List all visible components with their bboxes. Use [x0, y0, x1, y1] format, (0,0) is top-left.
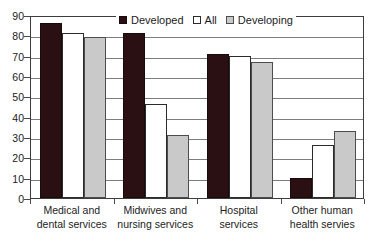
bar-group: [115, 17, 199, 198]
gray-square-icon: [226, 16, 234, 24]
x-axis-category-label-line: Hospital: [220, 204, 258, 216]
y-axis-tick-label: 30: [0, 133, 24, 143]
y-axis-tick-label: 90: [0, 11, 24, 21]
bar-chart: 9080706050403020100 Medical anddental se…: [0, 0, 377, 243]
x-axis-category-label-line: nursing services: [114, 217, 198, 231]
chart-legend: DevelopedAllDeveloping: [116, 13, 296, 27]
bar-all[interactable]: [62, 33, 84, 198]
filled-square-icon: [119, 16, 127, 24]
bar-group: [31, 17, 115, 198]
y-axis-tick-label: 0: [0, 194, 24, 204]
legend-entry-developing[interactable]: Developing: [226, 14, 293, 26]
y-axis: 9080706050403020100: [0, 0, 24, 243]
legend-label: All: [205, 14, 217, 26]
x-axis-tick-mark: [281, 199, 282, 204]
bar-all[interactable]: [145, 104, 167, 198]
legend-entry-all[interactable]: All: [193, 14, 217, 26]
bar-developing[interactable]: [84, 37, 106, 198]
x-axis-category-label: Other humanhealth servies: [281, 203, 365, 231]
y-axis-tick-label: 80: [0, 31, 24, 41]
y-axis-tick-label: 10: [0, 174, 24, 184]
bar-developing[interactable]: [251, 62, 273, 198]
bar-developing[interactable]: [334, 131, 356, 198]
x-axis-category-label: Midwives andnursing services: [114, 203, 198, 231]
x-axis-category-label-line: Midwives and: [123, 204, 187, 216]
x-axis-category-label-line: dental services: [30, 217, 114, 231]
bar-all[interactable]: [312, 145, 334, 198]
x-axis-tick-mark: [364, 199, 365, 204]
x-axis: Medical anddental servicesMidwives andnu…: [30, 203, 364, 243]
x-axis-category-label-line: health servies: [281, 217, 365, 231]
y-axis-tick-label: 70: [0, 52, 24, 62]
x-axis-category-label-line: Medical and: [43, 204, 100, 216]
legend-label: Developed: [131, 14, 184, 26]
x-axis-category-label: Medical anddental services: [30, 203, 114, 231]
x-axis-tick-mark: [114, 199, 115, 204]
bar-developing[interactable]: [167, 135, 189, 198]
bar-developed[interactable]: [40, 23, 62, 198]
legend-entry-developed[interactable]: Developed: [119, 14, 184, 26]
bars-layer: [31, 17, 363, 198]
x-axis-category-label-line: Other human: [292, 204, 353, 216]
bar-all[interactable]: [229, 56, 251, 198]
plot-area: [30, 16, 364, 199]
bar-developed[interactable]: [123, 33, 145, 198]
empty-square-icon: [193, 16, 201, 24]
bar-group: [282, 17, 366, 198]
y-axis-tick-label: 20: [0, 153, 24, 163]
x-axis-tick-mark: [197, 199, 198, 204]
y-axis-tick-label: 50: [0, 92, 24, 102]
y-axis-tick-label: 60: [0, 72, 24, 82]
bar-group: [198, 17, 282, 198]
x-axis-tick-mark: [30, 199, 31, 204]
bar-developed[interactable]: [207, 54, 229, 198]
bar-developed[interactable]: [290, 178, 312, 198]
y-axis-tick-label: 40: [0, 113, 24, 123]
x-axis-category-label-line: services: [197, 217, 281, 231]
x-axis-category-label: Hospitalservices: [197, 203, 281, 231]
legend-label: Developing: [238, 14, 293, 26]
